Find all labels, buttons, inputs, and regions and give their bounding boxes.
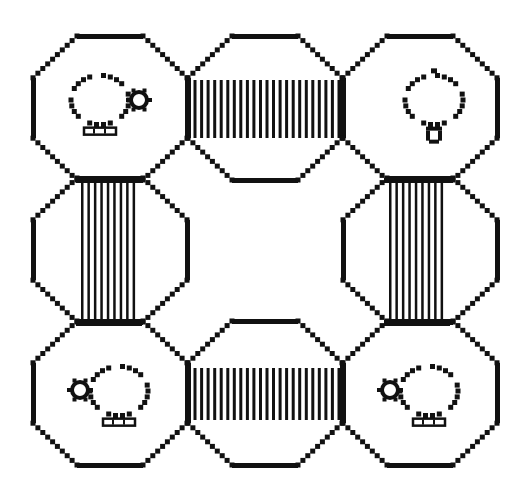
room-middle-left	[31, 176, 191, 326]
room-bottom-right	[341, 319, 501, 469]
bridge-top	[187, 80, 341, 138]
room-bottom-left	[31, 319, 191, 469]
room-top-right	[341, 34, 501, 184]
bridge-left	[76, 178, 142, 326]
pot-icon[interactable]	[403, 68, 466, 143]
pot-icon[interactable]	[377, 364, 461, 426]
room-top-left	[31, 34, 191, 184]
bridge-right	[384, 178, 450, 326]
room-middle-right	[341, 176, 501, 326]
pot-icon[interactable]	[67, 364, 151, 426]
dungeon-room-grid	[0, 0, 517, 494]
pot-icon[interactable]	[69, 73, 153, 135]
bridge-bottom	[187, 368, 341, 420]
knob-icon	[426, 127, 442, 144]
game-map	[0, 0, 517, 494]
